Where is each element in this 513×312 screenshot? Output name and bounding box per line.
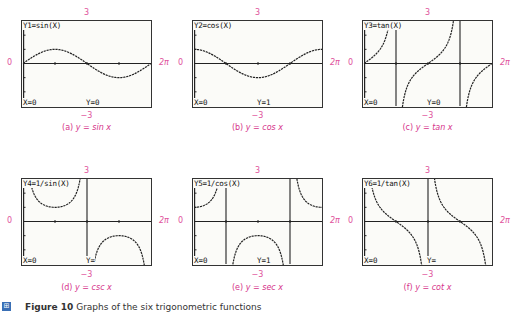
ymin-label: −3 bbox=[192, 111, 323, 120]
xmax-label: 2π bbox=[330, 58, 340, 67]
panel-caption: (e) y = sec x bbox=[192, 283, 323, 292]
xmax-label: 2π bbox=[159, 216, 169, 225]
panel-caption: (d) y = csc x bbox=[21, 283, 152, 292]
function-label: Y6=1/tan(X) bbox=[364, 179, 410, 188]
function-label: Y5=1/cos(X) bbox=[194, 179, 240, 188]
xmin-label: 0 bbox=[348, 58, 353, 67]
xmin-label: 0 bbox=[178, 58, 183, 67]
plot-sec bbox=[193, 179, 323, 266]
y-status: Y=1 bbox=[257, 98, 271, 107]
ymin-label: −3 bbox=[21, 111, 152, 120]
figure-caption: ⊞Figure 10 Graphs of the six trigonometr… bbox=[2, 302, 261, 312]
xmax-label: 2π bbox=[500, 216, 510, 225]
ymax-label: 3 bbox=[192, 8, 323, 17]
caption-equation: y = cot x bbox=[415, 283, 451, 292]
x-status: X=0 bbox=[364, 256, 378, 265]
xmin-label: 0 bbox=[348, 216, 353, 225]
xmin-label: 0 bbox=[7, 58, 12, 67]
caption-prefix: (e) bbox=[232, 283, 243, 292]
y-status: Y=0 bbox=[86, 98, 100, 107]
caption-equation: y = sec x bbox=[246, 283, 283, 292]
xmax-label: 2π bbox=[330, 216, 340, 225]
ymin-label: −3 bbox=[21, 270, 152, 279]
calculator-screen: Y5=1/cos(X) X=0 Y=1 bbox=[192, 178, 323, 266]
plot-tan bbox=[363, 21, 493, 108]
xmin-label: 0 bbox=[178, 216, 183, 225]
figure-caption-text: Graphs of the six trigonometric function… bbox=[76, 302, 261, 312]
y-status: Y=1 bbox=[257, 256, 271, 265]
function-label: Y3=tan(X) bbox=[364, 21, 402, 30]
y-status: Y=0 bbox=[427, 98, 441, 107]
caption-prefix: (d) bbox=[61, 283, 72, 292]
y-status: Y= bbox=[86, 256, 95, 265]
xmax-label: 2π bbox=[159, 58, 169, 67]
caption-equation: y = csc x bbox=[75, 283, 112, 292]
ymin-label: −3 bbox=[362, 270, 493, 279]
calculator-screen: Y4=1/sin(X) X=0 Y= bbox=[21, 178, 152, 266]
ymax-label: 3 bbox=[192, 166, 323, 175]
calculator-screen: Y1=sin(X) X=0 Y=0 bbox=[21, 20, 152, 108]
xmax-label: 2π bbox=[500, 58, 510, 67]
caption-equation: y = cos x bbox=[246, 123, 283, 132]
caption-prefix: (f) bbox=[404, 283, 413, 292]
x-status: X=0 bbox=[23, 256, 37, 265]
x-status: X=0 bbox=[364, 98, 378, 107]
figure-icon[interactable]: ⊞ bbox=[2, 302, 11, 311]
figure-number: Figure 10 bbox=[25, 302, 73, 312]
plot-csc bbox=[22, 179, 152, 266]
caption-prefix: (c) bbox=[402, 123, 413, 132]
x-status: X=0 bbox=[194, 98, 208, 107]
x-status: X=0 bbox=[23, 98, 37, 107]
y-status: Y= bbox=[427, 256, 436, 265]
ymax-label: 3 bbox=[21, 8, 152, 17]
calculator-screen: Y2=cos(X) X=0 Y=1 bbox=[192, 20, 323, 108]
caption-prefix: (b) bbox=[232, 123, 243, 132]
ymax-label: 3 bbox=[362, 166, 493, 175]
ymin-label: −3 bbox=[192, 270, 323, 279]
ymin-label: −3 bbox=[362, 111, 493, 120]
x-status: X=0 bbox=[194, 256, 208, 265]
panel-caption: (b) y = cos x bbox=[192, 123, 323, 132]
panel-caption: (f) y = cot x bbox=[362, 283, 493, 292]
function-label: Y4=1/sin(X) bbox=[23, 179, 69, 188]
ymax-label: 3 bbox=[21, 166, 152, 175]
caption-equation: y = tan x bbox=[416, 123, 453, 132]
panel-caption: (a) y = sin x bbox=[21, 123, 152, 132]
xmin-label: 0 bbox=[7, 216, 12, 225]
calculator-screen: Y6=1/tan(X) X=0 Y= bbox=[362, 178, 493, 266]
caption-prefix: (a) bbox=[62, 123, 73, 132]
plot-sin bbox=[22, 21, 152, 108]
ymax-label: 3 bbox=[362, 8, 493, 17]
calculator-screen: Y3=tan(X) X=0 Y=0 bbox=[362, 20, 493, 108]
plot-cot bbox=[363, 179, 493, 266]
function-label: Y1=sin(X) bbox=[23, 21, 61, 30]
panel-caption: (c) y = tan x bbox=[362, 123, 493, 132]
plot-cos bbox=[193, 21, 323, 108]
caption-equation: y = sin x bbox=[76, 123, 111, 132]
function-label: Y2=cos(X) bbox=[194, 21, 232, 30]
